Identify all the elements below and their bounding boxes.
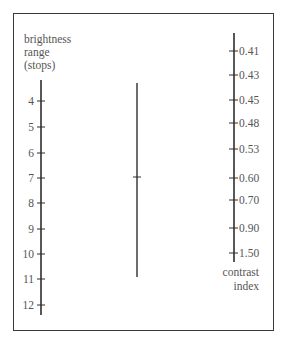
right-tick-label: 0.70 — [239, 194, 259, 206]
right-tick-label: 0.41 — [239, 45, 259, 57]
nomogram: brightness range (stops) 456789101112 0.… — [0, 0, 287, 346]
right-axis-label-line-1: contrast — [223, 266, 260, 278]
left-axis-label-line-2: range — [24, 46, 50, 59]
right-tick-label: 0.53 — [239, 143, 259, 155]
left-tick-label: 5 — [28, 121, 34, 133]
left-tick-label: 8 — [28, 197, 34, 209]
left-tick-label: 12 — [23, 299, 35, 311]
left-axis-label-line-3: (stops) — [24, 59, 55, 72]
left-tick-label: 4 — [28, 95, 34, 107]
left-tick-label: 9 — [28, 223, 34, 235]
left-tick-label: 11 — [23, 273, 34, 285]
left-tick-label: 6 — [28, 147, 34, 159]
right-tick-label: 1.50 — [239, 247, 259, 259]
left-tick-label: 7 — [28, 172, 34, 184]
left-axis-label-line-1: brightness — [24, 33, 72, 46]
right-axis-label-line-2: index — [233, 280, 259, 292]
right-tick-label: 0.90 — [239, 222, 259, 234]
left-tick-label: 10 — [23, 248, 35, 260]
right-tick-label: 0.60 — [239, 172, 259, 184]
right-tick-label: 0.45 — [239, 94, 259, 106]
left-axis-ticks: 456789101112 — [23, 95, 46, 311]
right-tick-label: 0.48 — [239, 117, 259, 129]
right-tick-label: 0.43 — [239, 69, 259, 81]
